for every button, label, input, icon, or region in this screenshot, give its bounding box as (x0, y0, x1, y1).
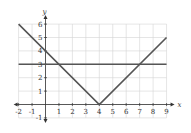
y-tick-label: 1 (38, 88, 42, 96)
y-tick-label: 4 (38, 47, 43, 55)
x-tick-label: 3 (84, 108, 88, 116)
x-tick-label: -1 (29, 108, 36, 116)
labels: -2-1123456789-1123456xy (15, 8, 181, 122)
y-tick-label: 2 (38, 74, 42, 82)
x-tick-label: 1 (57, 108, 61, 116)
x-tick-label: 4 (97, 108, 102, 116)
x-axis-arrow-left-icon (14, 103, 18, 107)
x-tick-label: 9 (164, 108, 168, 116)
x-axis-label: x (178, 101, 182, 109)
chart: -2-1123456789-1123456xy (0, 0, 191, 133)
x-tick-label: 2 (70, 108, 74, 116)
y-tick-label: 6 (38, 21, 43, 29)
y-axis-arrow-down-icon (44, 119, 48, 123)
x-tick-label: 5 (111, 108, 115, 116)
y-axis-label: y (42, 8, 48, 16)
x-tick-label: 6 (124, 108, 129, 116)
x-tick-label: 8 (151, 108, 155, 116)
y-tick-label: -1 (36, 114, 43, 122)
x-axis-arrow-icon (171, 103, 175, 107)
x-tick-label: -2 (15, 108, 22, 116)
x-tick-label: 7 (137, 108, 141, 116)
y-tick-label: 5 (38, 34, 42, 42)
y-tick-label: 3 (38, 61, 42, 69)
